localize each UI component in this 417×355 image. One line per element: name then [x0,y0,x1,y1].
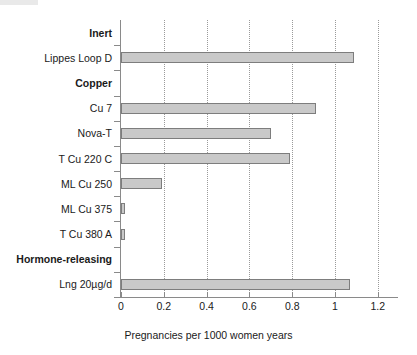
x-axis-tick [164,292,165,297]
category-label: Nova-T [0,127,112,139]
gridline-1-2 [378,20,379,297]
category-label: Lng 20µg/d [0,278,112,290]
category-label: T Cu 220 C [0,153,112,165]
bar [121,52,354,63]
group-label: Copper [0,77,112,89]
y-axis-tick [114,45,120,46]
corner-artifact [0,0,38,5]
x-tick-label: 1.2 [370,300,385,312]
category-label: T Cu 380 A [0,228,112,240]
category-label: ML Cu 250 [0,178,112,190]
x-axis-tick [335,292,336,297]
x-tick-label: 0.4 [199,300,214,312]
x-axis-tick [121,292,122,297]
bar [121,229,125,240]
bar [121,203,125,214]
x-tick-label: 0.6 [242,300,257,312]
group-label: Hormone-releasing [0,253,112,265]
y-axis-tick [114,221,120,222]
bar [121,178,162,189]
x-axis-tick [292,292,293,297]
bar [121,279,350,290]
x-axis-tick [249,292,250,297]
y-axis-tick [114,272,120,273]
category-label: Lippes Loop D [0,52,112,64]
y-axis-tick [114,70,120,71]
bar [121,103,316,114]
bar [121,153,290,164]
y-axis-tick [114,96,120,97]
y-axis-tick [114,247,120,248]
x-axis-tick [207,292,208,297]
category-label: ML Cu 375 [0,203,112,215]
y-axis-tick [114,171,120,172]
x-axis-line [120,297,398,298]
x-axis-title: Pregnancies per 1000 women years [0,329,417,341]
group-label: Inert [0,27,112,39]
bar-chart: InertLippes Loop DCopperCu 7Nova-TT Cu 2… [0,0,417,355]
x-axis-tick [378,292,379,297]
y-axis-tick [114,196,120,197]
y-axis-tick [114,121,120,122]
category-label: Cu 7 [0,102,112,114]
x-tick-label: 0.2 [156,300,171,312]
x-tick-label: 0.8 [285,300,300,312]
y-axis-tick [114,146,120,147]
y-axis-tick [114,297,120,298]
bar [121,128,271,139]
x-tick-label: 0 [118,300,124,312]
x-tick-label: 1 [332,300,338,312]
